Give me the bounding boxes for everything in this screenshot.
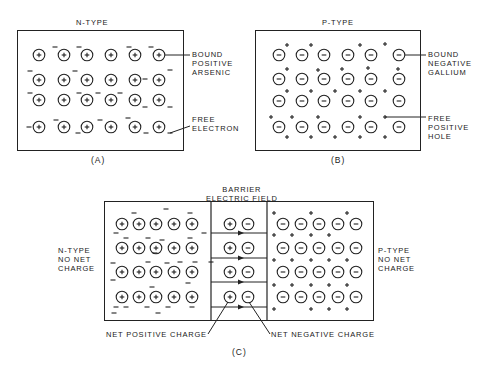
field-arrow-icon [238,231,244,236]
diagram-artwork [0,0,485,366]
field-arrow-icon [238,280,244,285]
field-arrow-icon [238,305,244,310]
leader-line [170,126,190,133]
field-arrow-icon [238,256,244,261]
